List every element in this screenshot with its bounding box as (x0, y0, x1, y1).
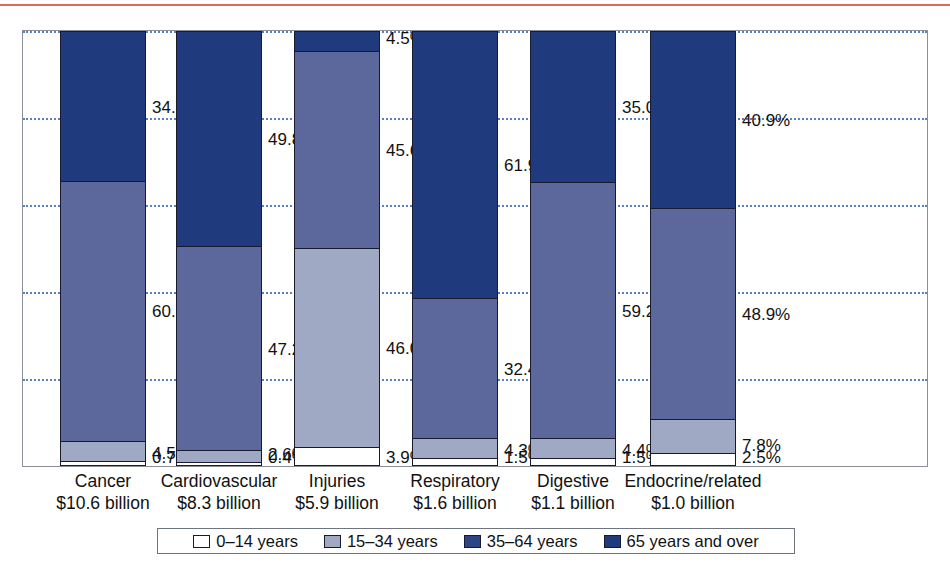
category-amount: $1.0 billion (603, 492, 783, 514)
segment-value-label: 48.9% (742, 305, 790, 322)
stacked-bar[interactable]: 4.5%45.6%46.0%3.9% (294, 31, 380, 466)
legend-item[interactable]: 15–34 years (324, 533, 438, 550)
bar-group[interactable]: 49.8%47.2%2.6%0.4% (176, 31, 262, 466)
legend-swatch-icon (324, 535, 341, 548)
stacked-bar[interactable]: 35.0%59.2%4.4%1.5% (530, 31, 616, 466)
stacked-bar[interactable]: 34.7%60.1%4.5%0.7% (60, 31, 146, 466)
bar-segment[interactable]: 48.9% (651, 208, 735, 419)
legend-label: 0–14 years (216, 533, 298, 550)
bar-group[interactable]: 61.9%32.4%4.3%1.5% (412, 31, 498, 466)
legend-item[interactable]: 65 years and over (604, 533, 759, 550)
bar-segment[interactable]: 4.4% (531, 438, 615, 458)
category-axis-labels: Cancer$10.6 billionCardiovascular$8.3 bi… (22, 470, 928, 522)
bar-segment[interactable]: 2.6% (177, 450, 261, 462)
stacked-bars-area: 34.7%60.1%4.5%0.7%49.8%47.2%2.6%0.4%4.5%… (22, 30, 928, 467)
legend-label: 65 years and over (627, 533, 759, 550)
category-name: Endocrine/related (603, 470, 783, 492)
bar-segment[interactable]: 60.1% (61, 181, 145, 440)
bar-segment[interactable]: 34.7% (61, 32, 145, 181)
bar-segment[interactable]: 40.9% (651, 32, 735, 208)
category-label: Endocrine/related$1.0 billion (603, 470, 783, 515)
legend-label: 35–64 years (487, 533, 578, 550)
segment-value-label: 40.9% (742, 111, 790, 128)
bar-segment[interactable]: 49.8% (177, 32, 261, 246)
bar-segment[interactable]: 4.3% (413, 438, 497, 457)
bar-group[interactable]: 4.5%45.6%46.0%3.9% (294, 31, 380, 466)
legend-swatch-icon (193, 535, 210, 548)
stacked-bar[interactable]: 40.9%48.9%7.8%2.5% (650, 31, 736, 466)
bar-segment[interactable]: 1.5% (413, 458, 497, 465)
legend-swatch-icon (464, 535, 481, 548)
bar-group[interactable]: 35.0%59.2%4.4%1.5% (530, 31, 616, 466)
chart-legend: 0–14 years15–34 years35–64 years65 years… (157, 528, 795, 554)
bar-segment[interactable]: 59.2% (531, 182, 615, 437)
bar-segment[interactable]: 4.5% (61, 441, 145, 461)
bar-segment[interactable]: 3.9% (295, 447, 379, 465)
bar-segment[interactable]: 2.5% (651, 453, 735, 465)
legend-label: 15–34 years (347, 533, 438, 550)
legend-swatch-icon (604, 535, 621, 548)
bar-segment[interactable]: 45.6% (295, 51, 379, 248)
bar-segment[interactable]: 47.2% (177, 246, 261, 450)
bar-segment[interactable]: 0.4% (177, 462, 261, 465)
bar-segment[interactable]: 46.0% (295, 248, 379, 447)
bar-segment[interactable]: 61.9% (413, 32, 497, 298)
legend-item[interactable]: 35–64 years (464, 533, 578, 550)
bar-segment[interactable]: 4.5% (295, 32, 379, 51)
bar-segment[interactable]: 1.5% (531, 458, 615, 465)
top-divider-rule (0, 4, 950, 6)
stacked-bar[interactable]: 61.9%32.4%4.3%1.5% (412, 31, 498, 466)
bar-segment[interactable]: 0.7% (61, 461, 145, 465)
legend-item[interactable]: 0–14 years (193, 533, 298, 550)
bar-segment[interactable]: 7.8% (651, 419, 735, 454)
bar-group[interactable]: 34.7%60.1%4.5%0.7% (60, 31, 146, 466)
bar-segment[interactable]: 35.0% (531, 32, 615, 182)
segment-value-label: 2.5% (742, 449, 781, 466)
stacked-bar[interactable]: 49.8%47.2%2.6%0.4% (176, 31, 262, 466)
bar-segment[interactable]: 32.4% (413, 298, 497, 438)
bar-group[interactable]: 40.9%48.9%7.8%2.5% (650, 31, 736, 466)
